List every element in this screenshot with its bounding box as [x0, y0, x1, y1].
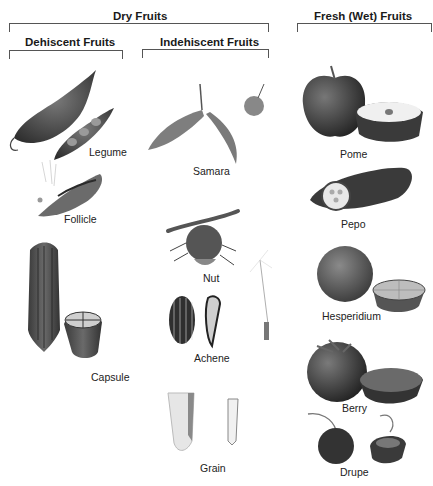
dry-fruits-header: Dry Fruits	[113, 10, 167, 22]
hesperidium-illustration	[315, 244, 433, 310]
dry-fruits-bracket	[9, 23, 269, 32]
dehiscent-fruits-header: Dehiscent Fruits	[25, 36, 115, 48]
drupe-illustration	[300, 410, 420, 468]
capsule-label: Capsule	[91, 371, 130, 383]
samara-label: Samara	[193, 165, 230, 177]
hesperidium-label: Hesperidium	[322, 310, 381, 322]
pome-label: Pome	[340, 148, 367, 160]
samara-illustration	[140, 80, 290, 165]
drupe-label: Drupe	[340, 466, 369, 478]
pepo-label: Pepo	[341, 218, 366, 230]
pome-illustration	[295, 64, 433, 146]
legume-illustration	[0, 60, 140, 160]
legume-label: Legume	[89, 146, 127, 158]
achene-illustration	[150, 250, 290, 345]
grain-label: Grain	[200, 462, 226, 474]
fresh-fruits-bracket	[297, 23, 432, 32]
dehiscent-bracket	[9, 50, 123, 59]
capsule-illustration	[0, 240, 140, 380]
follicle-label: Follicle	[64, 213, 97, 225]
berry-illustration	[303, 336, 433, 404]
follicle-illustration	[0, 160, 120, 230]
indehiscent-bracket	[142, 49, 269, 58]
grain-illustration	[160, 385, 280, 460]
pepo-illustration	[300, 160, 430, 220]
indehiscent-fruits-header: Indehiscent Fruits	[160, 36, 259, 48]
achene-label: Achene	[194, 352, 230, 364]
fresh-fruits-header: Fresh (Wet) Fruits	[314, 10, 412, 22]
